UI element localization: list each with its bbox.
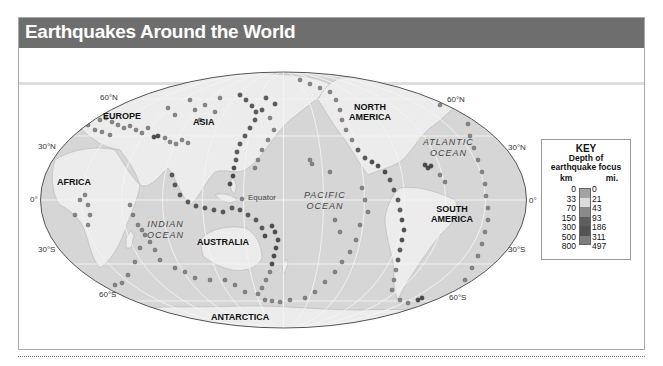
depth-key-legend: KEY Depth of earthquake focus km mi. 0 0… <box>541 139 631 260</box>
label-asia: ASIA <box>193 117 215 127</box>
label-africa: AFRICA <box>57 177 91 187</box>
key-subtitle-2: earthquake focus <box>542 163 630 172</box>
key-row: 0 0 <box>542 184 630 194</box>
label-atlantic-ocean: ATLANTIC OCEAN <box>423 137 474 159</box>
equator-label: Equator <box>248 193 276 202</box>
lat-label-60n-right: 60°N <box>447 95 465 104</box>
key-rows: 0 0 33 21 70 43 150 93 300 186 500 311 <box>542 184 630 251</box>
key-units: km mi. <box>542 172 630 183</box>
lat-label-60n-left: 60°N <box>100 93 118 102</box>
key-row: 800 497 <box>542 241 630 251</box>
label-north-america: NORTH AMERICA <box>349 102 391 122</box>
lat-label-eq-right: 0° <box>529 196 537 205</box>
lat-label-30s-right: 30°S <box>508 245 525 254</box>
lat-label-60s-left: 60°S <box>99 290 116 299</box>
label-antarctica: ANTARCTICA <box>211 312 269 322</box>
label-europe: EUROPE <box>103 111 141 121</box>
dotted-divider <box>18 356 645 357</box>
label-south-america: SOUTH AMERICA <box>431 204 473 224</box>
key-row: 150 93 <box>542 213 630 223</box>
lat-label-30n-left: 30°N <box>38 142 56 151</box>
lat-label-30n-right: 30°N <box>508 143 526 152</box>
key-row: 33 21 <box>542 194 630 204</box>
key-row: 300 186 <box>542 222 630 232</box>
label-indian-ocean: INDIAN OCEAN <box>147 219 184 241</box>
lat-label-eq-left: 0° <box>30 195 38 204</box>
lat-label-60s-right: 60°S <box>449 293 466 302</box>
lat-label-30s-left: 30°S <box>38 245 55 254</box>
key-row: 500 311 <box>542 232 630 242</box>
label-australia: AUSTRALIA <box>197 237 249 247</box>
key-unit-km: km <box>560 173 572 183</box>
key-unit-mi: mi. <box>606 173 618 183</box>
label-pacific-ocean: PACIFIC OCEAN <box>304 190 346 212</box>
key-row: 70 43 <box>542 203 630 213</box>
